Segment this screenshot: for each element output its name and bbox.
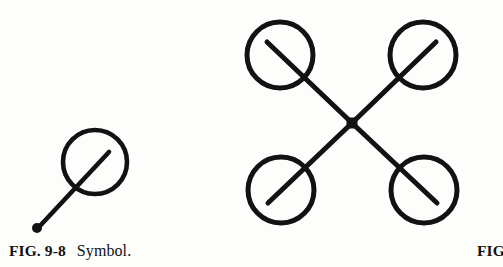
figure-9-8-caption: FIG. 9-8Symbol. [9, 243, 131, 259]
symbol-diagram [0, 0, 230, 240]
figure-9-8-caption-text: Symbol. [77, 242, 132, 259]
stem-to-top-left [267, 42, 352, 123]
stem-to-bottom-right [352, 123, 437, 203]
figure-9-9-caption: FIG. 9-9Nested symbol. [477, 243, 503, 259]
nested-symbol-diagram [230, 0, 503, 240]
figure-9-8-label: FIG. 9-8 [9, 242, 66, 259]
stem-line [38, 152, 109, 228]
figure-9-8: FIG. 9-8Symbol. [0, 0, 230, 267]
center-node [347, 118, 358, 129]
figure-9-9-label: FIG. 9-9 [477, 242, 503, 259]
figure-9-9: FIG. 9-9Nested symbol. [230, 0, 503, 267]
main-circle [63, 130, 127, 194]
figure-page: FIG. 9-8Symbol. FIG. 9-9Nested symbol. [0, 0, 503, 267]
stem-to-top-right [352, 42, 436, 123]
stem-to-bottom-left [268, 123, 352, 203]
stem-terminal-dot [32, 223, 42, 233]
